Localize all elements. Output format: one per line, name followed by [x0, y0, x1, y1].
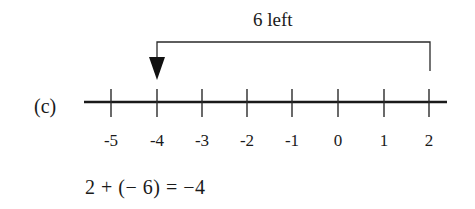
tick-label: 1: [380, 132, 389, 149]
jump-label: 6 left: [253, 10, 293, 29]
tick-label: 2: [425, 132, 434, 149]
part-label: (c): [34, 96, 56, 116]
tick-label: -2: [240, 132, 254, 149]
tick-label: -4: [150, 132, 164, 149]
number-line-diagram: 6 left (c) -5 -4 -3 -2 -1 0 1 2 2 + (− 6…: [0, 0, 475, 209]
tick-label: -5: [104, 132, 118, 149]
arrow-down-icon: [149, 57, 165, 80]
jump-bracket: [157, 42, 430, 71]
tick-label: -1: [285, 132, 299, 149]
number-line-svg: [0, 0, 475, 209]
tick-label: -3: [195, 132, 209, 149]
tick-label: 0: [334, 132, 343, 149]
equation: 2 + (− 6) = −4: [85, 177, 205, 197]
